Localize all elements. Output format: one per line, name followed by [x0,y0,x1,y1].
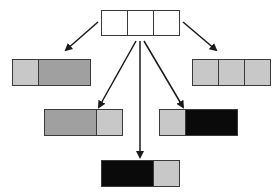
arrow-root-to-mid-right [144,41,183,107]
bar-bottom-cell-1 [154,161,180,187]
bar-bottom-cell-0 [102,161,154,187]
arrow-root-to-mid-left [99,41,136,107]
bar-mid-right-cell-0 [160,110,186,136]
arrow-root-to-right [183,22,216,50]
bar-right-cell-1 [219,60,245,86]
bar-root [102,11,180,36]
bar-bottom [102,161,180,187]
arrows [66,22,216,157]
bar-mid-right-cell-1 [186,110,238,136]
bar-right-cell-2 [245,60,271,86]
partition-tree-diagram [0,0,277,195]
bar-right [193,60,271,86]
bar-mid-right [160,110,238,136]
arrow-root-to-left [66,22,98,50]
bar-root-cell-1 [128,11,154,36]
bar-left [13,60,91,86]
bars [13,11,271,187]
bar-right-cell-0 [193,60,219,86]
bar-root-cell-2 [154,11,180,36]
bar-mid-left-cell-0 [45,110,97,136]
bar-mid-left-cell-1 [97,110,123,136]
bar-mid-left [45,110,123,136]
bar-left-cell-0 [13,60,39,86]
bar-left-cell-1 [39,60,91,86]
bar-root-cell-0 [102,11,128,36]
